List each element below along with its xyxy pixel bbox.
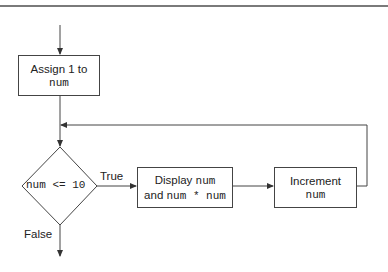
increment-node: Increment num xyxy=(274,167,357,208)
flowchart-connectors xyxy=(0,0,388,272)
display-text: Display xyxy=(155,174,196,186)
display-code: num xyxy=(196,175,216,187)
assign-node-text: Assign 1 to xyxy=(31,62,88,76)
display-node: Display num and num * num xyxy=(137,167,233,208)
increment-node-text: Increment xyxy=(290,174,341,188)
display-node-line1: Display num xyxy=(155,173,216,188)
true-label: True xyxy=(100,170,123,182)
false-label: False xyxy=(24,228,52,240)
assign-node-code: num xyxy=(49,76,69,90)
increment-node-code: num xyxy=(306,188,326,202)
display-node-line2: and num * num xyxy=(144,188,226,203)
display-expression-code: num * num xyxy=(166,190,225,202)
assign-node: Assign 1 to num xyxy=(18,55,100,96)
flowchart-canvas: Assign 1 to num num <= 10 True False Dis… xyxy=(0,0,388,272)
display-and-text: and xyxy=(144,189,166,201)
condition-text: num <= 10 xyxy=(26,179,85,191)
